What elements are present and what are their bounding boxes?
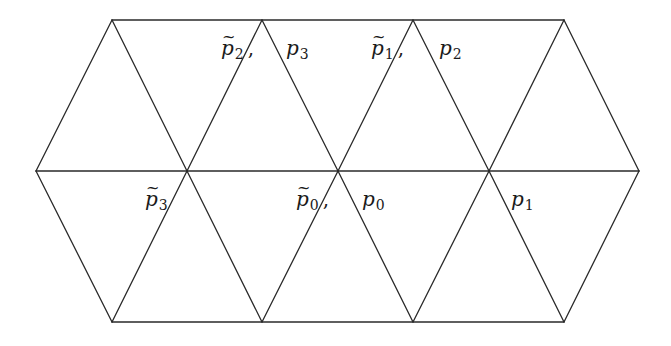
edge-outer-upper-left — [36, 20, 112, 171]
label-subscript: 1 — [525, 197, 534, 213]
label-comma: , — [398, 36, 404, 60]
label-p3: p3 — [286, 38, 309, 58]
edge-lower-diag — [413, 171, 489, 322]
label-subscript: 3 — [159, 197, 168, 213]
tilde-accent: ~ — [222, 29, 235, 45]
edges — [36, 20, 639, 322]
tilde-accent: ~ — [297, 180, 310, 196]
tilde-accent: ~ — [146, 180, 159, 196]
edge-outer-lower-left — [36, 171, 112, 322]
label-symbol: p — [286, 36, 299, 60]
edge-outer-upper-right — [564, 20, 639, 171]
edge-upper-diag — [112, 20, 187, 171]
label-symbol: p — [511, 187, 524, 211]
label-subscript: 0 — [310, 197, 319, 213]
label-comma: , — [323, 187, 329, 211]
label-comma: , — [248, 36, 254, 60]
label-p0-tilde: ~p0, — [296, 189, 329, 209]
edge-outer-lower-right — [564, 171, 639, 322]
label-p1-tilde: ~p1, — [371, 38, 404, 58]
label-p2-tilde: ~p2, — [221, 38, 254, 58]
label-symbol: p — [439, 36, 452, 60]
tilde-accent: ~ — [372, 29, 385, 45]
label-p1: p1 — [511, 189, 534, 209]
edge-lower-diag — [187, 171, 262, 322]
label-p2: p2 — [439, 38, 462, 58]
label-subscript: 0 — [376, 197, 385, 213]
label-subscript: 3 — [300, 46, 309, 62]
label-symbol: p — [362, 187, 375, 211]
label-subscript: 1 — [385, 46, 394, 62]
edge-upper-diag — [489, 20, 564, 171]
label-p0: p0 — [362, 189, 385, 209]
label-subscript: 2 — [453, 46, 462, 62]
hexagon-triangulation — [0, 0, 671, 346]
label-subscript: 2 — [235, 46, 244, 62]
label-p3-tilde: ~p3 — [145, 189, 168, 209]
